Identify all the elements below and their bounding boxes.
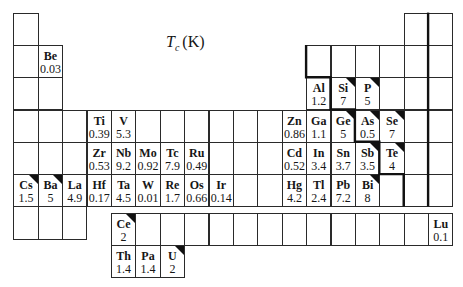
tc-value: 0.92 (135, 160, 160, 172)
empty-cell (209, 110, 234, 143)
empty-cell (428, 110, 453, 143)
element-cell-ta: Ta4.5 (111, 174, 136, 207)
tc-value: 1.1 (306, 128, 331, 140)
element-cell-bi: Bi8 (355, 174, 380, 207)
tc-value: 0.5 (355, 128, 380, 140)
empty-cell (404, 174, 429, 207)
element-symbol: Hf (88, 179, 111, 191)
tc-value: 5 (331, 128, 356, 140)
element-symbol: Zn (283, 115, 306, 127)
tc-value: 1.2 (306, 95, 331, 107)
element-symbol: Th (112, 250, 135, 262)
empty-cell (306, 213, 331, 246)
empty-cell (160, 110, 185, 143)
element-cell-ga: Ga1.1 (306, 110, 331, 143)
empty-cell (13, 13, 38, 46)
empty-cell (38, 110, 63, 143)
element-cell-in: In3.4 (306, 142, 331, 175)
tc-value: 7.2 (331, 192, 356, 204)
empty-cell (282, 213, 307, 246)
element-cell-sn: Sn3.7 (331, 142, 356, 175)
tc-value: 5 (38, 192, 63, 204)
figure-title: Tc(K) (166, 33, 205, 53)
empty-cell (331, 45, 356, 78)
element-symbol: Nb (112, 147, 135, 159)
empty-cell (257, 110, 282, 143)
element-cell-nb: Nb9.2 (111, 142, 136, 175)
triangle-marker-icon (370, 143, 379, 152)
empty-cell (355, 213, 380, 246)
tc-value: 1.5 (13, 192, 38, 204)
tc-value: 4.5 (111, 192, 136, 204)
tc-value: 0.66 (184, 192, 209, 204)
tc-value: 0.03 (38, 63, 63, 75)
element-symbol: Sn (332, 147, 355, 159)
element-cell-ge: Ge5 (331, 110, 356, 143)
tc-value: 1.4 (111, 263, 136, 275)
empty-cell (38, 206, 63, 239)
tc-value: 8 (355, 192, 380, 204)
tc-value: 0.14 (209, 192, 234, 204)
empty-cell (135, 213, 160, 246)
empty-cell (135, 110, 160, 143)
tc-value: 1.4 (135, 263, 160, 275)
element-symbol: Mo (136, 147, 159, 159)
tc-value: 0.17 (87, 192, 112, 204)
element-cell-ir: Ir0.14 (209, 174, 234, 207)
empty-cell (404, 142, 429, 175)
empty-cell (404, 213, 429, 246)
empty-cell (257, 213, 282, 246)
element-cell-zr: Zr0.53 (87, 142, 112, 175)
empty-cell (209, 142, 234, 175)
element-symbol: Pb (332, 179, 355, 191)
tc-value: 0.53 (87, 160, 112, 172)
triangle-marker-icon (29, 175, 38, 184)
empty-cell (404, 110, 429, 143)
element-symbol: Zr (88, 147, 111, 159)
element-symbol: Os (185, 179, 208, 191)
element-cell-se: Se7 (379, 110, 404, 143)
triangle-marker-icon (370, 175, 379, 184)
element-cell-ba: Ba5 (38, 174, 63, 207)
tc-value: 7 (379, 128, 404, 140)
triangle-marker-icon (395, 143, 404, 152)
tc-value: 4 (379, 160, 404, 172)
element-cell-p: P5 (355, 77, 380, 110)
element-cell-hf: Hf0.17 (87, 174, 112, 207)
empty-cell (233, 110, 258, 143)
element-symbol: Ru (185, 147, 208, 159)
triangle-marker-icon (346, 111, 355, 120)
empty-cell (355, 45, 380, 78)
empty-cell (62, 206, 87, 239)
empty-cell (209, 213, 234, 246)
empty-cell (233, 142, 258, 175)
empty-cell (428, 174, 453, 207)
element-cell-mo: Mo0.92 (135, 142, 160, 175)
empty-cell (404, 77, 429, 110)
empty-cell (306, 45, 331, 78)
empty-cell (13, 45, 38, 78)
element-symbol: Ga (307, 115, 330, 127)
triangle-marker-icon (346, 78, 355, 87)
element-cell-ru: Ru0.49 (184, 142, 209, 175)
element-symbol: Be (39, 50, 62, 62)
element-symbol: Ta (112, 179, 135, 191)
element-cell-w: W0.01 (135, 174, 160, 207)
periodic-table-figure: Tc(K) Be0.03Al1.2Si7P5Ti0.39V5.3Zn0.86Ga… (0, 0, 463, 287)
empty-cell (62, 142, 87, 175)
empty-cell (379, 45, 404, 78)
tc-value: 7 (331, 95, 356, 107)
empty-cell (13, 142, 38, 175)
triangle-marker-icon (370, 78, 379, 87)
empty-cell (428, 142, 453, 175)
element-symbol: Lu (429, 218, 452, 230)
empty-cell (404, 45, 429, 78)
element-cell-pb: Pb7.2 (331, 174, 356, 207)
empty-cell (13, 77, 38, 110)
element-symbol: W (136, 179, 159, 191)
tc-value: 4.2 (282, 192, 307, 204)
tc-value: 5.3 (111, 128, 136, 140)
element-symbol: Ir (210, 179, 233, 191)
empty-cell (379, 213, 404, 246)
element-cell-tc: Tc7.9 (160, 142, 185, 175)
